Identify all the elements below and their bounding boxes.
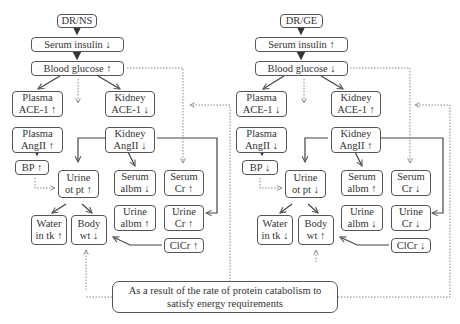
right-kidney-ace1-box: Kidney ACE-1 ↑ [331,91,381,117]
left-plasma-angii-box: Plasma AngII ↑ [12,127,63,153]
dr-ge-box: DR/GE [280,14,323,28]
left-urine-albm-box: Urine albm ↑ [114,205,156,231]
protein-catabolism-note: As a result of the rate of protein catab… [112,281,338,313]
right-serum-cr-box: Serum Cr ↓ [391,170,431,196]
left-plasma-ace1-box: Plasma ACE-1 ↑ [12,91,63,117]
left-bp-box: BP ↑ [15,160,49,175]
left-serum-insulin-box: Serum insulin ↓ [31,37,124,52]
flowchart-diagram: DR/NS Serum insulin ↓ Blood glucose ↑ Pl… [0,0,460,324]
left-urine-ot-pt-box: Urine ot pt ↑ [58,170,99,198]
right-kidney-angii-box: Kidney AngII ↑ [331,127,381,153]
right-plasma-angii-box: Plasma AngII ↓ [236,127,287,153]
right-blood-glucose-box: Blood glucose ↓ [255,61,348,76]
right-body-wt-box: Body wt ↑ [298,215,334,245]
left-serum-cr-box: Serum Cr ↑ [164,170,204,196]
right-urine-ot-pt-box: Urine ot pt ↓ [285,170,326,198]
left-urine-cr-box: Urine Cr ↑ [164,205,204,231]
right-urine-cr-box: Urine Cr ↓ [391,205,431,231]
right-water-in-tk-box: Water in tk ↓ [257,215,293,245]
left-serum-albm-box: Serum albm ↓ [114,170,156,196]
dr-ns-box: DR/NS [57,14,97,28]
right-bp-box: BP ↓ [242,160,278,175]
left-kidney-ace1-box: Kidney ACE-1 ↓ [105,91,155,117]
right-serum-albm-box: Serum albm ↑ [341,170,383,196]
left-clcr-box: ClCr ↑ [164,238,204,253]
right-plasma-ace1-box: Plasma ACE-1 ↓ [236,91,287,117]
left-blood-glucose-box: Blood glucose ↑ [31,61,124,76]
right-urine-albm-box: Urine albm ↓ [341,205,383,231]
right-serum-insulin-box: Serum insulin ↑ [255,37,348,52]
left-kidney-angii-box: Kidney AngII ↓ [105,127,155,153]
left-body-wt-box: Body wt ↓ [71,215,107,245]
right-clcr-box: ClCr ↓ [391,238,431,253]
left-water-in-tk-box: Water in tk ↑ [31,215,67,245]
